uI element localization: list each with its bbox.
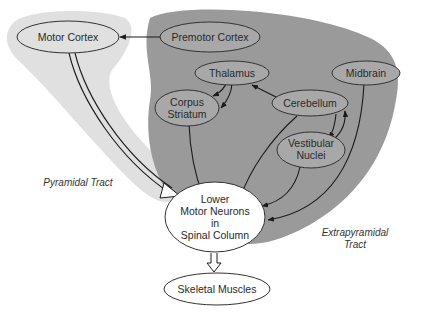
node-skeletal-muscles: Skeletal Muscles [164, 273, 270, 305]
svg-text:Midbrain: Midbrain [346, 67, 386, 79]
node-lower-motor-neurons: Lower Motor Neurons in Spinal Column [165, 182, 265, 252]
svg-text:Vestibular: Vestibular [288, 137, 335, 149]
svg-text:Nuclei: Nuclei [296, 149, 325, 161]
hollow-block-arrow-lmn-to-muscles [207, 253, 221, 272]
svg-text:Premotor Cortex: Premotor Cortex [171, 31, 249, 43]
svg-text:Striatum: Striatum [167, 108, 206, 120]
svg-text:Lower: Lower [201, 193, 230, 205]
node-corpus-striatum: Corpus Striatum [155, 90, 219, 126]
svg-text:Corpus: Corpus [170, 96, 204, 108]
extrapyramidal-tract-label-line2: Tract [344, 239, 367, 250]
node-premotor-cortex: Premotor Cortex [160, 22, 260, 52]
extrapyramidal-tract-label-line1: Extrapyramidal [322, 227, 389, 238]
node-vestibular-nuclei: Vestibular Nuclei [277, 132, 345, 168]
motor-pathways-diagram: Motor Cortex Premotor Cortex Thalamus Co… [0, 0, 426, 318]
node-midbrain: Midbrain [332, 61, 400, 85]
svg-text:Cerebellum: Cerebellum [283, 97, 337, 109]
svg-text:Motor Neurons: Motor Neurons [180, 205, 249, 217]
pyramidal-tract-label: Pyramidal Tract [43, 177, 113, 188]
svg-text:Spinal Column: Spinal Column [181, 229, 249, 241]
node-thalamus: Thalamus [195, 61, 269, 85]
svg-text:Thalamus: Thalamus [209, 67, 255, 79]
svg-text:in: in [211, 217, 219, 229]
node-cerebellum: Cerebellum [272, 90, 348, 116]
svg-text:Skeletal Muscles: Skeletal Muscles [178, 283, 257, 295]
node-motor-cortex: Motor Cortex [17, 21, 119, 53]
svg-text:Motor Cortex: Motor Cortex [38, 31, 99, 43]
